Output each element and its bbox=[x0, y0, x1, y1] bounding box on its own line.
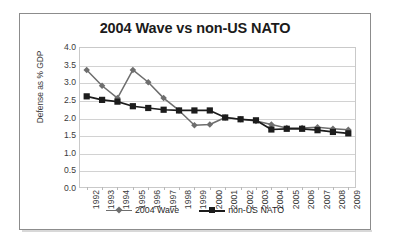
data-point-marker bbox=[207, 107, 213, 113]
y-axis-tick-label: 4.0 bbox=[42, 42, 76, 52]
data-point-marker bbox=[145, 105, 151, 111]
x-axis-tickmark bbox=[348, 187, 349, 190]
x-axis-tickmark bbox=[87, 187, 88, 190]
x-axis-tickmark bbox=[333, 187, 334, 190]
y-axis-tick-label: 3.0 bbox=[42, 77, 76, 87]
x-axis-tickmark bbox=[271, 187, 272, 190]
y-axis-tick-label: 2.0 bbox=[42, 113, 76, 123]
x-axis-tickmark bbox=[179, 187, 180, 190]
y-axis-tick-labels: 0.00.51.01.52.02.53.03.54.0 bbox=[42, 47, 76, 188]
data-point-marker bbox=[222, 114, 228, 120]
data-point-marker bbox=[314, 127, 320, 133]
data-point-marker bbox=[284, 126, 290, 132]
x-axis-tickmark bbox=[241, 187, 242, 190]
plot-area-wrapper bbox=[79, 47, 356, 188]
x-axis-tickmark bbox=[318, 187, 319, 190]
data-point-marker bbox=[253, 117, 259, 123]
y-axis-tick-label: 0.0 bbox=[42, 183, 76, 193]
legend-label-2004-wave: 2004 Wave bbox=[135, 205, 179, 215]
x-axis-tickmark bbox=[102, 187, 103, 190]
legend-swatch-diamond-icon bbox=[106, 206, 132, 215]
data-point-marker bbox=[84, 93, 90, 99]
data-point-marker bbox=[268, 126, 274, 132]
data-point-marker bbox=[191, 107, 197, 113]
series-2004-wave bbox=[83, 67, 351, 133]
chart-screenshot: 2004 Wave vs non-US NATO Defense as % GD… bbox=[0, 0, 393, 243]
legend-label-non-us-nato: non-US NATO bbox=[228, 205, 284, 215]
x-axis-tickmark bbox=[302, 187, 303, 190]
series-line bbox=[87, 70, 349, 130]
data-point-marker bbox=[130, 103, 136, 109]
series-layer bbox=[79, 47, 356, 188]
x-axis-tickmark bbox=[210, 187, 211, 190]
data-point-marker bbox=[99, 97, 105, 103]
legend-item-2004-wave: 2004 Wave bbox=[106, 205, 179, 215]
series-non-us-nato bbox=[84, 93, 352, 136]
x-axis-tickmark bbox=[148, 187, 149, 190]
x-axis-tickmark bbox=[287, 187, 288, 190]
data-point-marker bbox=[161, 107, 167, 113]
x-axis-tickmark bbox=[133, 187, 134, 190]
data-point-marker bbox=[114, 99, 120, 105]
chart-frame: 2004 Wave vs non-US NATO Defense as % GD… bbox=[19, 13, 371, 230]
data-point-marker bbox=[176, 107, 182, 113]
y-axis-tick-label: 3.5 bbox=[42, 60, 76, 70]
x-axis-tickmark bbox=[164, 187, 165, 190]
x-axis-tickmark bbox=[194, 187, 195, 190]
data-point-marker bbox=[299, 126, 305, 132]
chart-legend: 2004 Wave non-US NATO bbox=[20, 205, 370, 215]
y-axis-tick-label: 1.5 bbox=[42, 130, 76, 140]
x-axis-tickmark bbox=[117, 187, 118, 190]
y-axis-tick-label: 0.5 bbox=[42, 165, 76, 175]
x-axis-tickmark bbox=[225, 187, 226, 190]
data-point-marker bbox=[237, 116, 243, 122]
data-point-marker bbox=[345, 130, 351, 136]
legend-swatch-square-icon bbox=[199, 206, 225, 215]
chart-title: 2004 Wave vs non-US NATO bbox=[20, 20, 370, 36]
legend-item-non-us-nato: non-US NATO bbox=[199, 205, 284, 215]
data-point-marker bbox=[207, 121, 214, 128]
x-axis-tickmark bbox=[256, 187, 257, 190]
y-axis-tick-label: 2.5 bbox=[42, 95, 76, 105]
data-point-marker bbox=[330, 129, 336, 135]
y-axis-tick-label: 1.0 bbox=[42, 148, 76, 158]
